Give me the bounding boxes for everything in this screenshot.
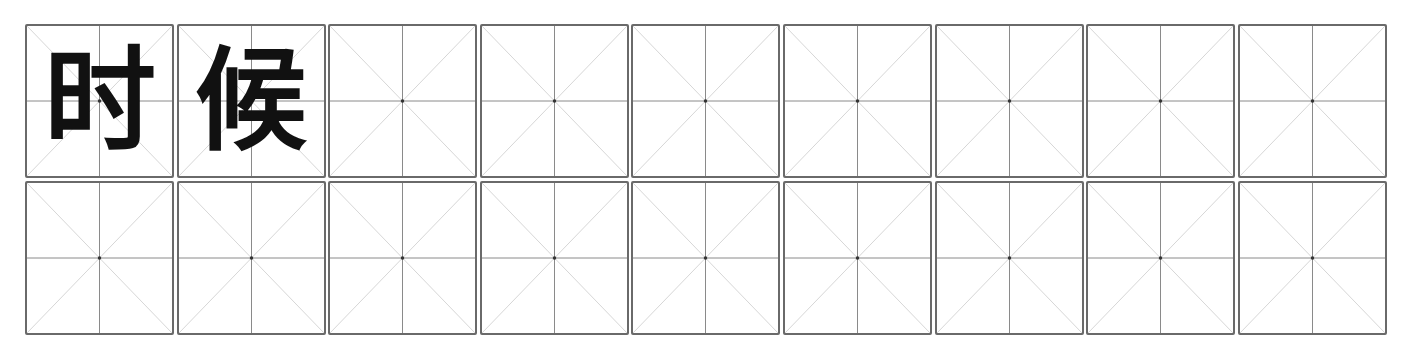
practice-character <box>1240 183 1385 333</box>
grid-cell <box>177 181 326 335</box>
practice-character <box>482 183 627 333</box>
practice-character <box>1088 183 1233 333</box>
practice-character <box>179 183 324 333</box>
grid-cell <box>25 181 174 335</box>
practice-character <box>785 26 930 176</box>
grid-cell <box>480 24 629 178</box>
grid-cell: 候 <box>177 24 326 178</box>
grid-cell <box>328 181 477 335</box>
grid-cell <box>480 181 629 335</box>
practice-character <box>633 183 778 333</box>
practice-character <box>330 183 475 333</box>
grid-cell <box>1086 181 1235 335</box>
grid-cell <box>328 24 477 178</box>
grid-cell <box>935 24 1084 178</box>
practice-character: 候 <box>179 26 324 176</box>
grid-cell <box>783 181 932 335</box>
grid-cell <box>631 181 780 335</box>
practice-character <box>27 183 172 333</box>
grid-cell <box>783 24 932 178</box>
practice-character <box>937 26 1082 176</box>
practice-character <box>482 26 627 176</box>
grid-cell <box>1238 24 1387 178</box>
grid-cell: 时 <box>25 24 174 178</box>
practice-grid: 时候 <box>25 24 1387 335</box>
practice-character <box>785 183 930 333</box>
grid-cell <box>631 24 780 178</box>
grid-cell <box>1086 24 1235 178</box>
practice-character <box>1240 26 1385 176</box>
practice-character: 时 <box>27 26 172 176</box>
practice-character <box>1088 26 1233 176</box>
grid-cell <box>935 181 1084 335</box>
practice-character <box>330 26 475 176</box>
practice-character <box>937 183 1082 333</box>
practice-character <box>633 26 778 176</box>
grid-cell <box>1238 181 1387 335</box>
